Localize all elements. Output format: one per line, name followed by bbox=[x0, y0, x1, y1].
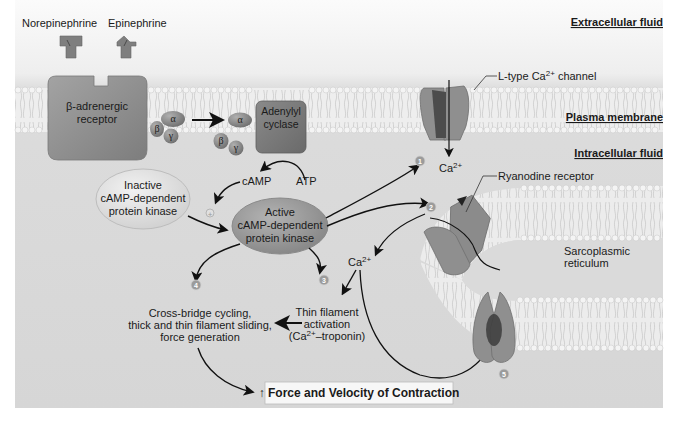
lipid-head bbox=[491, 87, 497, 93]
lipid-head bbox=[29, 127, 35, 133]
lipid-head bbox=[647, 235, 653, 241]
lipid-head bbox=[580, 297, 586, 303]
lipid-head bbox=[524, 297, 530, 303]
lipid-head bbox=[528, 235, 534, 241]
lipid-head bbox=[414, 87, 420, 93]
lipid-head bbox=[316, 87, 322, 93]
lipid-head bbox=[540, 87, 546, 93]
lipid-head bbox=[183, 87, 189, 93]
lipid-head bbox=[561, 87, 567, 93]
lipid-head bbox=[603, 87, 609, 93]
lipid-head bbox=[598, 235, 604, 241]
active-pka-label-line1: Active bbox=[265, 206, 295, 218]
lipid-head bbox=[211, 127, 217, 133]
lipid-head bbox=[645, 127, 651, 133]
lipid-head bbox=[232, 127, 238, 133]
result-label: ↑ Force and Velocity of Contraction bbox=[259, 386, 460, 400]
lipid-head bbox=[524, 345, 530, 351]
adenylyl-cyclase-label-line1: Adenylyl bbox=[261, 105, 301, 117]
lipid-head bbox=[498, 127, 504, 133]
lipid-head bbox=[582, 87, 588, 93]
lipid-head bbox=[561, 127, 567, 133]
lipid-head bbox=[640, 235, 646, 241]
lipid-head bbox=[484, 127, 490, 133]
lipid-head bbox=[358, 87, 364, 93]
lipid-head bbox=[587, 297, 593, 303]
lipid-head bbox=[645, 87, 651, 93]
lipid-head bbox=[545, 297, 551, 303]
lipid-head bbox=[570, 235, 576, 241]
lipid-head bbox=[400, 87, 406, 93]
lipid-head bbox=[344, 87, 350, 93]
lipid-head bbox=[617, 127, 623, 133]
lipid-head bbox=[622, 297, 628, 303]
lipid-head bbox=[211, 87, 217, 93]
lipid-head bbox=[589, 87, 595, 93]
lipid-head bbox=[344, 127, 350, 133]
step-1-number: 1 bbox=[418, 158, 422, 165]
lipid-head bbox=[358, 127, 364, 133]
lipid-head bbox=[629, 345, 635, 351]
lipid-head bbox=[556, 235, 562, 241]
lipid-head bbox=[533, 87, 539, 93]
lipid-head bbox=[647, 185, 653, 191]
step-3-number: 3 bbox=[322, 277, 326, 284]
lipid-head bbox=[337, 127, 343, 133]
lipid-head bbox=[521, 185, 527, 191]
lipid-head bbox=[549, 235, 555, 241]
lipid-head bbox=[393, 127, 399, 133]
lipid-head bbox=[246, 127, 252, 133]
lipid-head bbox=[225, 87, 231, 93]
lipid-head bbox=[330, 87, 336, 93]
lipid-head bbox=[309, 87, 315, 93]
lipid-head bbox=[477, 127, 483, 133]
svg-text:+: + bbox=[208, 210, 213, 219]
lipid-head bbox=[563, 185, 569, 191]
step-2-number: 2 bbox=[429, 204, 433, 211]
lipid-head bbox=[610, 127, 616, 133]
svg-text:α: α bbox=[170, 113, 176, 124]
norepinephrine-label: Norepinephrine bbox=[22, 17, 97, 29]
lipid-head bbox=[580, 345, 586, 351]
step-4-number: 4 bbox=[194, 282, 198, 289]
lipid-head bbox=[22, 87, 28, 93]
ryanodine-receptor-label: Ryanodine receptor bbox=[498, 170, 594, 182]
lipid-head bbox=[538, 345, 544, 351]
lipid-head bbox=[650, 345, 656, 351]
lipid-head bbox=[626, 235, 632, 241]
lipid-head bbox=[540, 127, 546, 133]
lipid-head bbox=[365, 87, 371, 93]
lipid-head bbox=[612, 185, 618, 191]
lipid-head bbox=[559, 345, 565, 351]
lipid-head bbox=[619, 185, 625, 191]
lipid-head bbox=[577, 235, 583, 241]
svg-text:α: α bbox=[237, 114, 243, 125]
lipid-head bbox=[598, 185, 604, 191]
lipid-head bbox=[538, 297, 544, 303]
lipid-head bbox=[601, 297, 607, 303]
lipid-head bbox=[316, 127, 322, 133]
lipid-head bbox=[505, 127, 511, 133]
crossbridge-label-line3: force generation bbox=[160, 331, 240, 343]
lipid-head bbox=[584, 185, 590, 191]
lipid-head bbox=[657, 345, 663, 351]
lipid-head bbox=[379, 87, 385, 93]
lipid-head bbox=[650, 297, 656, 303]
lipid-head bbox=[386, 87, 392, 93]
lipid-head bbox=[640, 185, 646, 191]
svg-text:β: β bbox=[154, 123, 159, 134]
epinephrine-label: Epinephrine bbox=[108, 17, 167, 29]
lipid-head bbox=[573, 345, 579, 351]
crossbridge-label-line1: Cross-bridge cycling, bbox=[149, 307, 252, 319]
lipid-head bbox=[605, 235, 611, 241]
lipid-head bbox=[552, 345, 558, 351]
lipid-head bbox=[484, 87, 490, 93]
lipid-head bbox=[603, 127, 609, 133]
active-pka-label-line3: protein kinase bbox=[246, 232, 315, 244]
lipid-head bbox=[629, 297, 635, 303]
lipid-head bbox=[638, 87, 644, 93]
lipid-head bbox=[232, 87, 238, 93]
lipid-head bbox=[491, 127, 497, 133]
lipid-head bbox=[582, 127, 588, 133]
lipid-head bbox=[549, 185, 555, 191]
